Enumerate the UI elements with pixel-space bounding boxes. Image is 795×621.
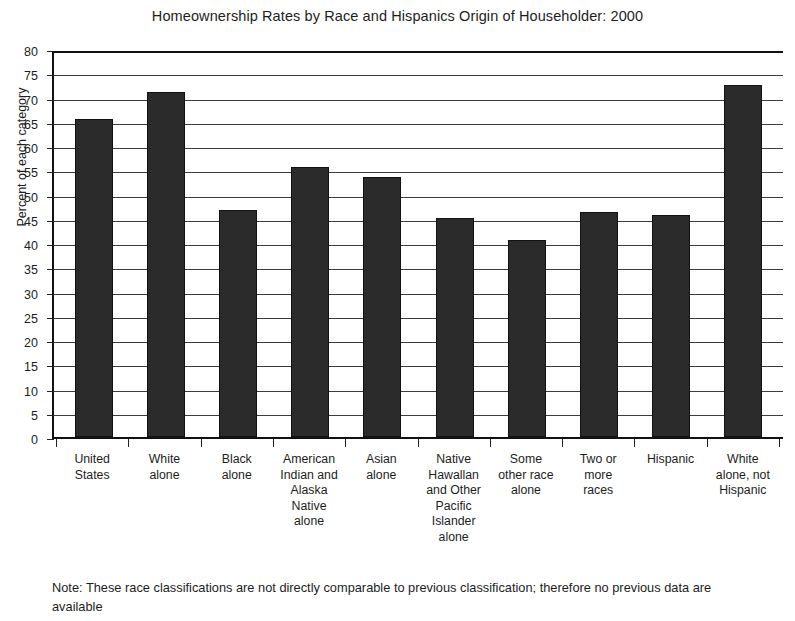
x-tick-5 [418,439,419,447]
y-tick-40: 40 [47,245,54,246]
y-tick-label: 0 [31,433,38,447]
y-tick-label: 30 [24,288,38,302]
x-tick-2 [201,439,202,447]
y-tick-label: 10 [24,385,38,399]
y-tick-15: 15 [47,366,54,367]
y-tick-45: 45 [47,221,54,222]
x-axis-label-6: Someother racealone [490,452,562,545]
y-tick-65: 65 [47,124,54,125]
bar-2 [219,210,257,437]
chart-note: Note: These race classifications are not… [52,578,752,616]
chart-plot-area: 80757065605550454035302520151050 [52,51,783,439]
x-axis-label-2: Blackalone [201,452,273,545]
y-tick-label: 35 [24,263,38,277]
bar-5 [436,218,474,437]
y-tick-label: 45 [24,215,38,229]
bar-7 [580,212,618,437]
page-title: Homeownership Rates by Race and Hispanic… [0,8,795,24]
x-tick-0 [56,439,57,447]
y-tick-label: 50 [24,191,38,205]
bar-slot [58,51,130,437]
bar-9 [724,85,762,437]
bar-series [54,51,783,437]
y-tick-20: 20 [47,342,54,343]
y-tick-10: 10 [47,391,54,392]
y-tick-5: 5 [47,415,54,416]
x-tick-7 [562,439,563,447]
y-tick-label: 25 [24,312,38,326]
bar-0 [75,119,113,437]
plot-frame: 80757065605550454035302520151050 [52,51,783,439]
x-tick-9 [707,439,708,447]
x-axis-label-5: NativeHawallanand OtherPacificIslanderal… [417,452,489,545]
bar-slot [346,51,418,437]
x-tick-10 [779,439,780,447]
y-tick-label: 70 [24,94,38,108]
x-axis-label-8: Hispanic [634,452,706,545]
y-tick-60: 60 [47,148,54,149]
y-tick-label: 60 [24,142,38,156]
y-tick-label: 80 [24,45,38,59]
x-axis-label-9: Whitealone, notHispanic [707,452,779,545]
x-tick-6 [490,439,491,447]
x-tick-4 [345,439,346,447]
y-tick-50: 50 [47,197,54,198]
y-tick-label: 15 [24,360,38,374]
x-axis-label-7: Two ormoreraces [562,452,634,545]
y-tick-label: 40 [24,239,38,253]
bar-4 [363,177,401,437]
y-tick-25: 25 [47,318,54,319]
x-axis-ticks [52,439,783,447]
bar-slot [563,51,635,437]
bar-slot [274,51,346,437]
x-axis-label-3: AmericanIndian andAlaskaNativealone [273,452,345,545]
y-tick-55: 55 [47,172,54,173]
y-tick-label: 65 [24,118,38,132]
y-tick-30: 30 [47,294,54,295]
x-tick-8 [634,439,635,447]
bar-slot [130,51,202,437]
x-axis-label-1: Whitealone [128,452,200,545]
x-axis-labels: UnitedStatesWhitealoneBlackaloneAmerican… [52,452,783,545]
y-tick-label: 55 [24,166,38,180]
bar-slot [635,51,707,437]
bar-slot [707,51,779,437]
bar-8 [652,215,690,437]
y-tick-35: 35 [47,269,54,270]
x-tick-3 [273,439,274,447]
y-tick-80: 80 [47,51,54,52]
x-tick-1 [128,439,129,447]
y-tick-label: 20 [24,336,38,350]
x-axis-label-0: UnitedStates [56,452,128,545]
bar-1 [147,92,185,437]
y-tick-70: 70 [47,100,54,101]
bar-slot [418,51,490,437]
y-tick-label: 5 [31,409,38,423]
bar-6 [508,240,546,437]
y-tick-75: 75 [47,75,54,76]
bar-3 [291,167,329,437]
bar-slot [491,51,563,437]
y-tick-label: 75 [24,69,38,83]
x-axis-label-4: Asianalone [345,452,417,545]
bar-slot [202,51,274,437]
